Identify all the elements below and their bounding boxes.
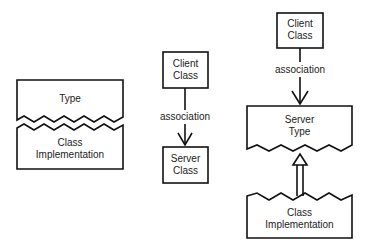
type-label: Type <box>17 93 123 105</box>
server-type-line1: Server <box>247 114 352 126</box>
class-label-line2: Implementation <box>17 149 123 161</box>
middle-client-line2: Class <box>163 70 208 82</box>
middle-server-line2: Class <box>163 165 208 177</box>
right-association-label: association <box>265 64 335 76</box>
middle-server-label: Server Class <box>163 153 208 177</box>
right-client-label: Client Class <box>277 18 323 42</box>
right-impl-line2: Implementation <box>247 219 352 231</box>
right-client-line2: Class <box>277 30 323 42</box>
middle-client-line1: Client <box>163 58 208 70</box>
right-client-line1: Client <box>277 18 323 30</box>
class-implementation-label: Class Implementation <box>17 137 123 161</box>
right-class-implementation-label: Class Implementation <box>247 207 352 231</box>
middle-association-label: association <box>150 111 220 123</box>
server-type-label: Server Type <box>247 114 352 138</box>
server-type-line2: Type <box>247 126 352 138</box>
class-label-line1: Class <box>17 137 123 149</box>
middle-client-label: Client Class <box>163 58 208 82</box>
right-impl-line1: Class <box>247 207 352 219</box>
middle-server-line1: Server <box>163 153 208 165</box>
